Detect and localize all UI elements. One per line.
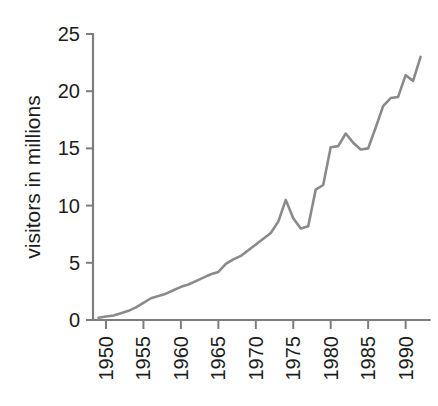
y-axis [86,34,93,320]
y-axis-tick-label: 5 [69,252,80,274]
x-axis-tick-label: 1965 [207,336,229,381]
x-axis-tick-label: 1955 [132,336,154,381]
x-axis-tick-label: 1960 [170,336,192,381]
data-line-visitors [99,57,421,318]
x-axis-tick-label: 1980 [320,336,342,381]
x-axis-tick-label: 1950 [95,336,117,381]
x-axis-tick-labels: 195019551960196519701975198019851990 [95,336,417,381]
x-axis-tick-label: 1990 [395,336,417,381]
y-axis-tick-label: 20 [58,80,80,102]
y-axis-tick-label: 25 [58,23,80,45]
data-series-group [99,57,421,318]
line-chart: 0510152025 19501955196019651970197519801… [0,0,438,406]
x-axis-tick-label: 1985 [357,336,379,381]
y-axis-tick-labels: 0510152025 [58,23,80,331]
y-axis-title-text: visitors in millions [21,95,44,258]
x-axis-tick-label: 1970 [245,336,267,381]
x-axis-tick-label: 1975 [282,336,304,381]
y-axis-tick-label: 10 [58,195,80,217]
y-axis-title: visitors in millions [21,95,44,258]
y-axis-tick-label: 0 [69,309,80,331]
chart-container: 0510152025 19501955196019651970197519801… [0,0,438,406]
y-axis-tick-label: 15 [58,137,80,159]
x-axis [93,320,430,329]
